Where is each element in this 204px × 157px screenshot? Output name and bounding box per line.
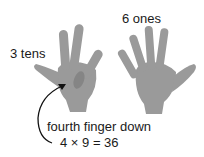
right-hand (117, 26, 196, 114)
nine-times-finger-trick-diagram: 3 tens 6 ones fourth finger down 4 × 9 =… (0, 0, 204, 157)
ones-label: 6 ones (122, 12, 161, 25)
arrow-icon (38, 86, 62, 143)
caption-label: fourth finger down (47, 120, 151, 133)
tens-label: 3 tens (10, 47, 45, 60)
equation-label: 4 × 9 = 36 (60, 136, 119, 149)
